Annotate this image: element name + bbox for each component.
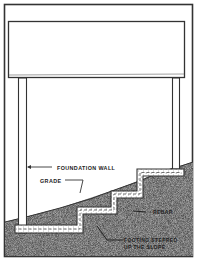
label-foundation-wall: FOUNDATION WALL — [57, 165, 116, 171]
label-grade: GRADE — [40, 178, 61, 184]
house-floor-box — [9, 22, 185, 78]
foundation-wall-left — [19, 78, 27, 233]
label-rebar: REBAR — [153, 209, 173, 215]
foundation-wall-right — [173, 78, 180, 169]
label-footing-line2: UP THE SLOPE — [124, 244, 166, 250]
stepped-footing-diagram: FOUNDATION WALL GRADE REBAR FOOTING STEP… — [0, 0, 204, 261]
label-footing-line1: FOOTING STEPPED — [124, 237, 178, 243]
